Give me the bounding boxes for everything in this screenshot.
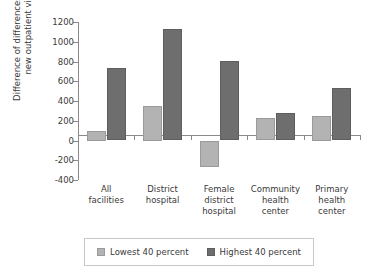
legend-swatch-icon-lowest <box>97 248 105 256</box>
y-tick-label: 400 <box>58 96 74 106</box>
y-axis-title: Difference of differences in mean new ou… <box>5 0 41 115</box>
x-tick-mark <box>304 135 305 140</box>
x-tick-mark <box>134 135 135 140</box>
bar-highest-0[interactable] <box>107 68 126 140</box>
x-axis-category-label-4: Primary health center <box>294 184 366 217</box>
bar-lowest-4[interactable] <box>312 116 331 141</box>
legend-swatch-icon-highest <box>207 248 215 256</box>
x-tick-mark <box>360 135 361 140</box>
bar-highest-2[interactable] <box>220 61 239 141</box>
y-tick-label: 800 <box>58 57 74 67</box>
legend-label-lowest: Lowest 40 percent <box>110 247 189 257</box>
x-tick-mark <box>247 135 248 140</box>
y-axis-line <box>78 22 79 180</box>
legend-entry-lowest[interactable]: Lowest 40 percent <box>97 247 189 257</box>
bar-highest-1[interactable] <box>163 29 182 141</box>
y-tick-label: -200 <box>55 155 74 165</box>
chart-legend: Lowest 40 percent Highest 40 percent <box>84 238 314 266</box>
y-tick-label: 1200 <box>52 17 74 27</box>
plot-area: -400-200020040060080010001200 <box>78 22 360 180</box>
legend-entry-highest[interactable]: Highest 40 percent <box>207 247 301 257</box>
bar-lowest-2[interactable] <box>200 141 219 168</box>
chart-figure: Difference of differences in mean new ou… <box>0 0 366 275</box>
bar-lowest-0[interactable] <box>87 131 106 141</box>
bar-highest-4[interactable] <box>332 88 351 140</box>
y-tick-label: 200 <box>58 116 74 126</box>
x-tick-mark <box>191 135 192 140</box>
y-tick-label: 1000 <box>52 37 74 47</box>
bar-lowest-3[interactable] <box>256 118 275 141</box>
bar-lowest-1[interactable] <box>143 106 162 141</box>
bar-highest-3[interactable] <box>276 113 295 141</box>
y-tick-label: 0 <box>69 136 74 146</box>
legend-label-highest: Highest 40 percent <box>220 247 301 257</box>
y-tick-label: 600 <box>58 76 74 86</box>
x-tick-mark <box>78 135 79 140</box>
